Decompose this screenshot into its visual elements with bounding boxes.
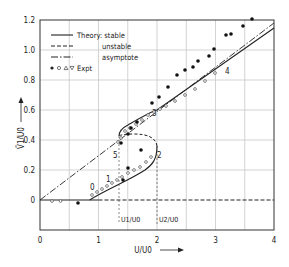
expt-open-markers: [51, 72, 217, 203]
x-axis-label: U/U0: [134, 246, 152, 255]
u2-label: U2/U0: [159, 216, 178, 224]
x-tick: 3: [213, 236, 218, 245]
x-axis-arrow: [160, 248, 184, 253]
svg-text:4: 4: [225, 67, 230, 76]
legend: Theory: stable unstable asymptote Expt: [50, 31, 138, 73]
x-tick: 0: [38, 236, 43, 245]
y-tick: 0.6: [24, 106, 36, 115]
x-tick: 2: [155, 236, 160, 245]
svg-text:0: 0: [90, 183, 95, 192]
legend-asymptote: asymptote: [102, 53, 138, 62]
svg-text:5: 5: [113, 151, 118, 160]
y-tick: 0.8: [24, 76, 36, 85]
x-axis-ticks: 0 1 2 3 4: [38, 236, 277, 245]
y-tick: 0.2: [24, 166, 35, 175]
stable-lower-branch: [90, 146, 157, 200]
y-tick: 0: [30, 196, 35, 205]
svg-text:1: 1: [106, 175, 111, 184]
u1-label: U1/U0: [121, 216, 140, 224]
y-axis-ticks: 1.2 1.0 0.8 0.6 0.4 0.2 0: [24, 16, 36, 205]
curve-labels: 0 1 2 3 4 5: [90, 67, 230, 192]
legend-unstable: unstable: [102, 42, 131, 51]
legend-stable: Theory: stable: [76, 31, 125, 40]
legend-expt: Expt: [77, 64, 93, 73]
y-axis-label: Ṽ1/U0: [15, 127, 26, 149]
y-tick: 1.2: [24, 16, 35, 25]
y-tick: 1.0: [24, 46, 36, 55]
svg-text:2: 2: [157, 151, 162, 160]
chart-container: 1.2 1.0 0.8 0.6 0.4 0.2 0 0 1 2 3 4 U/U0…: [0, 0, 289, 267]
x-tick: 4: [272, 236, 277, 245]
chart-svg: 1.2 1.0 0.8 0.6 0.4 0.2 0 0 1 2 3 4 U/U0…: [0, 0, 289, 267]
x-tick: 1: [96, 236, 101, 245]
